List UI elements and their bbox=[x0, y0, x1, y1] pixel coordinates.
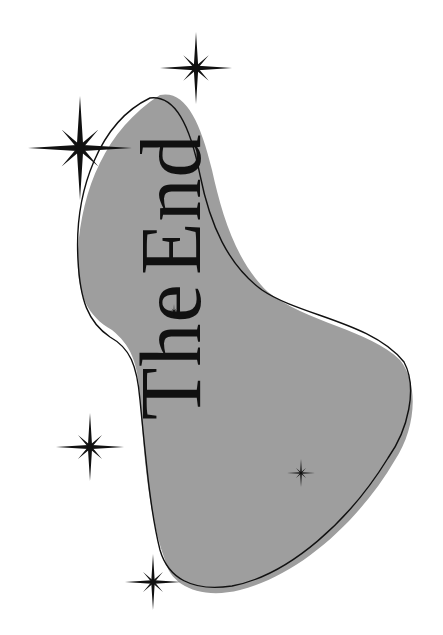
title-word-end: End bbox=[123, 133, 219, 275]
title-word-the: The bbox=[123, 283, 219, 420]
star-mid-left-icon bbox=[56, 413, 124, 481]
star-top-icon bbox=[160, 32, 232, 104]
the-end-illustration: The End bbox=[0, 0, 443, 635]
